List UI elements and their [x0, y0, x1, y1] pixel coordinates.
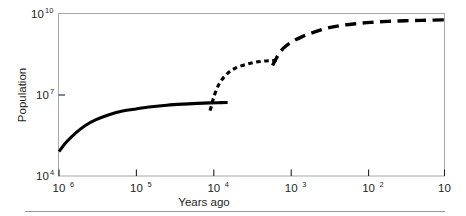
y-tick-1e4-exp: 4 — [50, 168, 54, 177]
x-tick-label-1e3: 10 3 — [285, 180, 307, 194]
x-tick-label-1e6: 10 6 — [53, 180, 75, 194]
y-tick-1e10-exp: 10 — [45, 6, 53, 15]
x-tick-1e1-base: 10 — [438, 182, 451, 194]
x-tick-1e5-exp: 5 — [147, 180, 151, 189]
x-tick-1e2-base: 10 — [362, 182, 375, 194]
x-axis-ticks — [59, 170, 445, 177]
x-tick-label-1e4: 10 4 — [207, 180, 229, 194]
curve-segment-solid — [59, 103, 228, 152]
x-tick-1e3-base: 10 — [285, 182, 298, 194]
x-tick-1e5-base: 10 — [130, 182, 143, 194]
x-axis-title: Years ago — [178, 196, 229, 208]
population-growth-figure: 10 10 10 7 10 4 10 6 10 5 10 4 10 3 10 — [0, 0, 466, 216]
x-tick-1e4-exp: 4 — [225, 180, 229, 189]
y-tick-label-1e4: 10 4 — [36, 168, 54, 182]
y-tick-1e7-base: 10 — [36, 89, 49, 101]
y-axis-title: Population — [16, 68, 28, 122]
y-tick-label-1e7: 10 7 — [36, 87, 54, 101]
x-tick-1e3-exp: 3 — [302, 180, 306, 189]
x-tick-1e4-base: 10 — [207, 182, 220, 194]
x-tick-1e6-base: 10 — [53, 182, 66, 194]
x-tick-1e2-exp: 2 — [380, 180, 384, 189]
y-tick-label-1e10: 10 10 — [31, 6, 53, 20]
x-tick-label-1e1: 10 — [438, 182, 451, 194]
y-tick-1e4-base: 10 — [36, 170, 49, 182]
x-tick-1e6-exp: 6 — [70, 180, 74, 189]
x-tick-label-1e2: 10 2 — [362, 180, 384, 194]
plot-frame — [59, 14, 445, 177]
y-tick-1e10-base: 10 — [31, 8, 44, 20]
y-tick-1e7-exp: 7 — [50, 87, 54, 96]
x-tick-label-1e5: 10 5 — [130, 180, 152, 194]
curve-segment-dashed — [273, 20, 445, 66]
population-chart: 10 10 10 7 10 4 10 6 10 5 10 4 10 3 10 — [0, 0, 466, 216]
